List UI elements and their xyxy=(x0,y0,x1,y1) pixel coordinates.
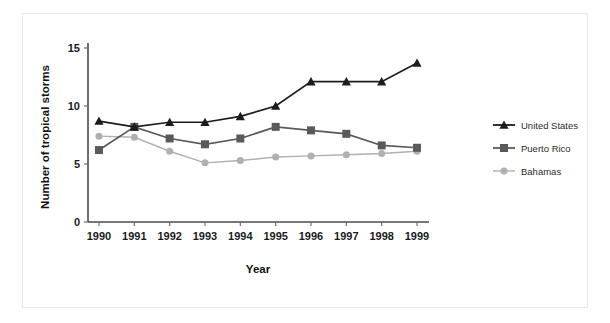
data-point-marker-square xyxy=(378,141,386,149)
legend-item-puerto-rico[interactable]: Puerto Rico xyxy=(493,143,571,154)
series-puerto-rico xyxy=(95,123,421,154)
x-axis-tick-label: 1999 xyxy=(405,230,429,242)
y-axis-tick-label: 10 xyxy=(68,100,80,112)
data-point-marker-circle xyxy=(308,152,315,159)
data-point-marker-square xyxy=(236,134,244,142)
data-point-marker-circle xyxy=(343,151,350,158)
line-chart: 051015 199019911992199319941995199619971… xyxy=(0,0,610,323)
x-axis-tick-label: 1994 xyxy=(228,230,253,242)
data-point-marker-circle xyxy=(378,150,385,157)
data-point-marker-circle xyxy=(96,133,103,140)
data-point-marker-triangle xyxy=(94,116,103,124)
x-axis-tick-label: 1998 xyxy=(369,230,393,242)
legend-item-united-states[interactable]: United States xyxy=(493,120,578,131)
x-axis-title: Year xyxy=(246,263,271,275)
legend-label: United States xyxy=(521,120,578,131)
data-point-marker-square xyxy=(166,134,174,142)
data-point-marker-circle xyxy=(166,148,173,155)
data-point-marker-circle xyxy=(501,168,508,175)
y-axis-tick-label: 15 xyxy=(68,42,80,54)
x-axis-tick-label: 1992 xyxy=(157,230,181,242)
data-point-marker-circle xyxy=(272,154,279,161)
x-axis-tick-label: 1996 xyxy=(299,230,323,242)
legend-label: Puerto Rico xyxy=(521,143,571,154)
y-axis-tick-label: 0 xyxy=(74,216,80,228)
data-point-marker-square xyxy=(307,126,315,134)
data-point-marker-triangle xyxy=(271,101,280,109)
x-axis-tick-label: 1995 xyxy=(263,230,287,242)
chart-axis-titles: YearNumber of tropical storms xyxy=(39,65,271,275)
data-point-marker-circle xyxy=(131,134,138,141)
series-line xyxy=(99,63,417,127)
data-point-marker-square xyxy=(95,146,103,154)
series-united-states xyxy=(94,58,421,130)
chart-series-group xyxy=(94,58,421,166)
series-bahamas xyxy=(96,133,421,167)
data-point-marker-circle xyxy=(202,159,209,166)
x-axis-tick-label: 1991 xyxy=(122,230,146,242)
x-axis-tick-label: 1990 xyxy=(87,230,111,242)
data-point-marker-square xyxy=(413,144,421,152)
series-line xyxy=(99,136,417,163)
data-point-marker-square xyxy=(342,130,350,138)
y-axis-tick-label: 5 xyxy=(74,158,80,170)
legend-label: Bahamas xyxy=(521,166,561,177)
x-axis-tick-labels: 1990199119921993199419951996199719981999 xyxy=(87,230,429,242)
x-axis-tick-label: 1997 xyxy=(334,230,358,242)
legend-item-bahamas[interactable]: Bahamas xyxy=(493,166,561,177)
data-point-marker-square xyxy=(500,144,508,152)
data-point-marker-square xyxy=(272,123,280,131)
y-axis-title: Number of tropical storms xyxy=(39,65,51,209)
x-axis-tick-label: 1993 xyxy=(193,230,217,242)
y-axis-tick-labels: 051015 xyxy=(68,42,80,228)
series-line xyxy=(99,127,417,150)
data-point-marker-circle xyxy=(237,157,244,164)
chart-legend: United StatesPuerto RicoBahamas xyxy=(493,120,578,177)
data-point-marker-square xyxy=(201,140,209,148)
chart-svg: 051015 199019911992199319941995199619971… xyxy=(0,0,610,323)
data-point-marker-triangle xyxy=(412,58,421,66)
